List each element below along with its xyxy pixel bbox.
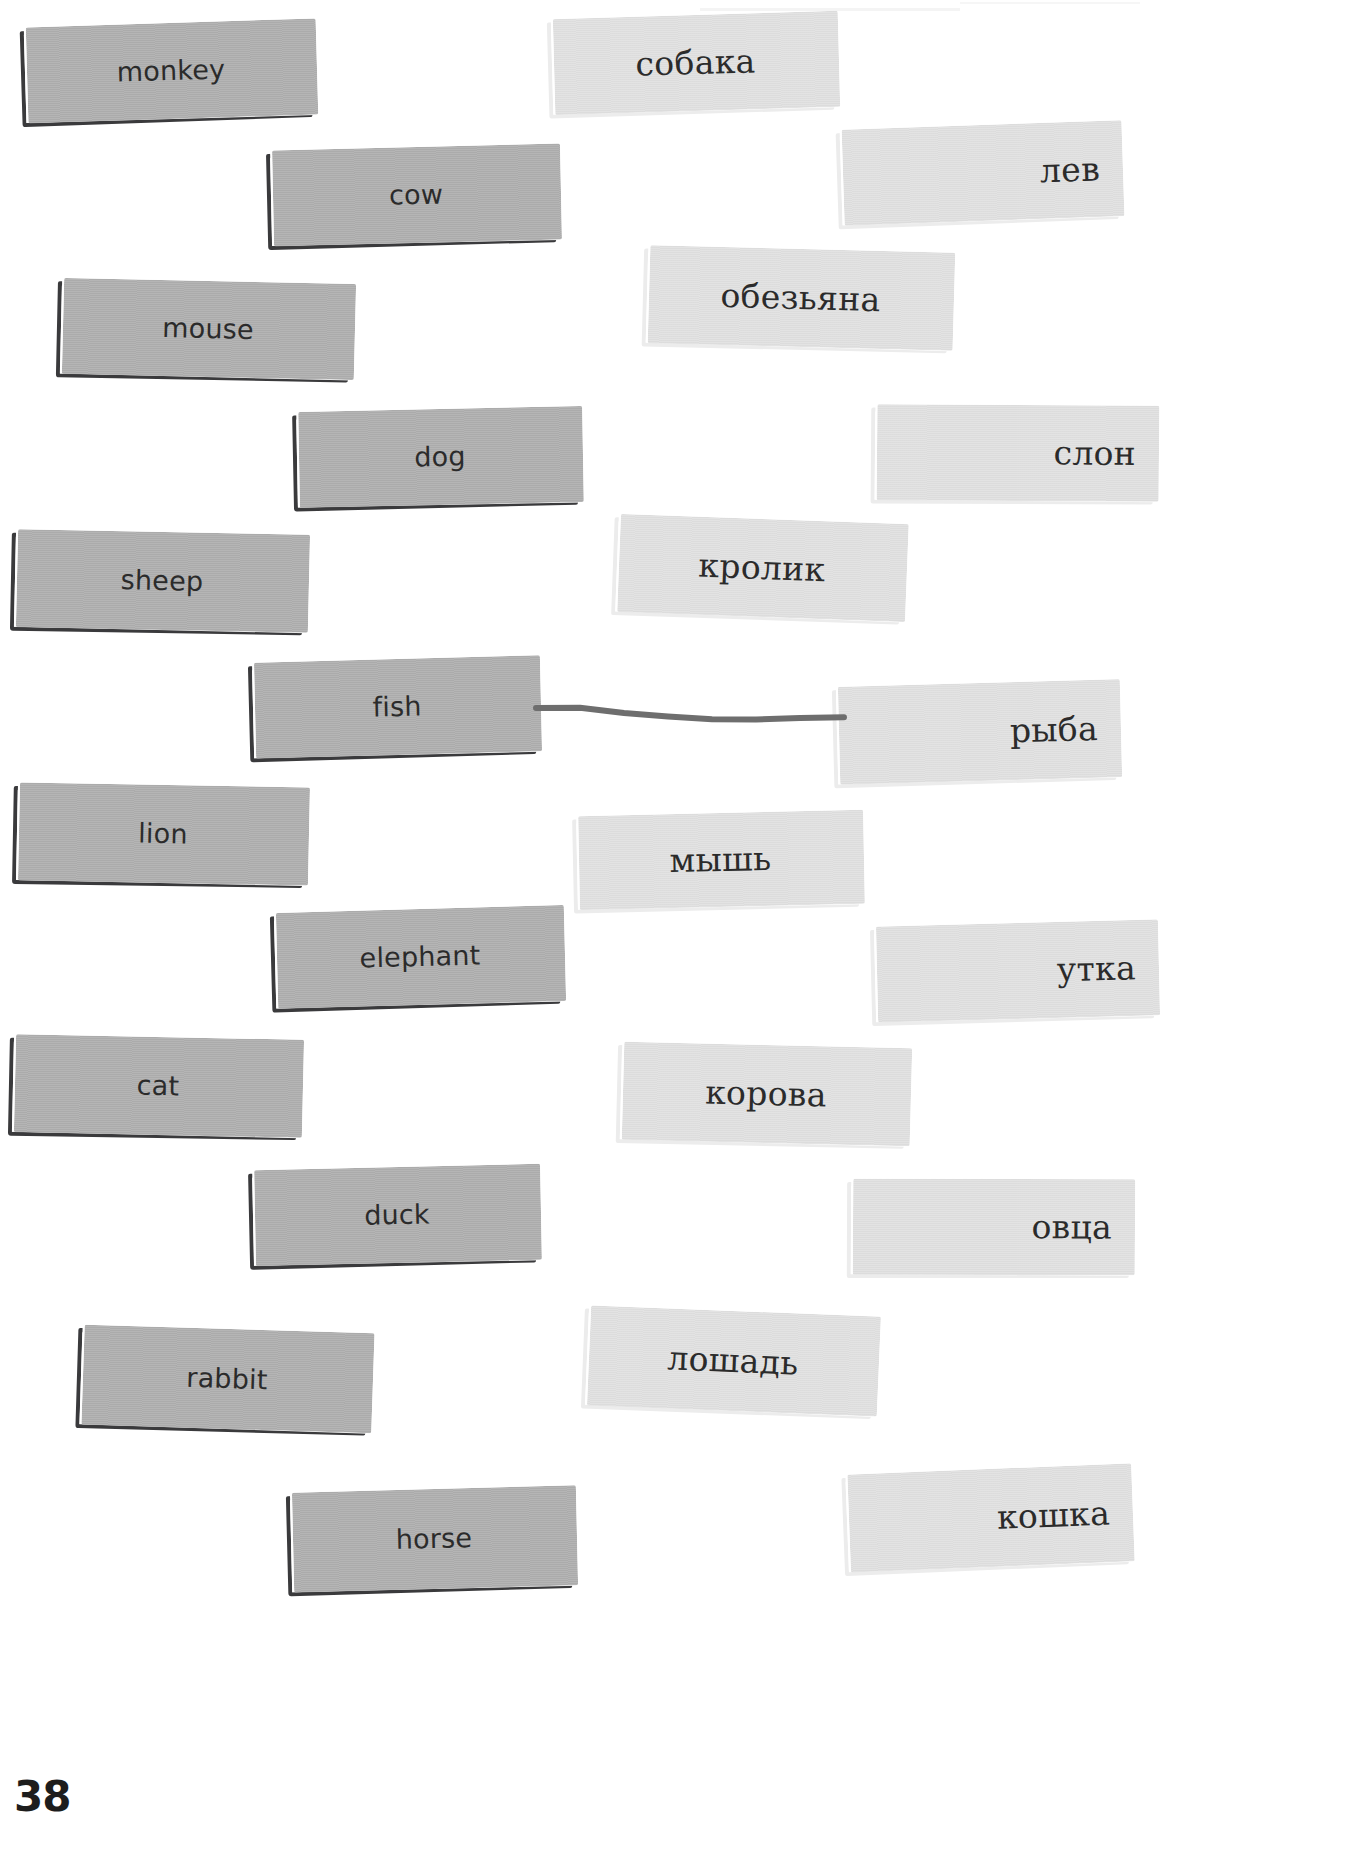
english-word-card-cat[interactable]: cat (13, 1033, 303, 1138)
english-word-card-fish[interactable]: fish (253, 655, 541, 757)
page-number: 38 (14, 1772, 70, 1821)
card-label: dog (298, 440, 582, 472)
card-label: duck (254, 1198, 540, 1230)
card-label: утка (876, 950, 1159, 989)
english-word-card-lion[interactable]: lion (17, 781, 309, 885)
english-word-card-mouse[interactable]: mouse (61, 276, 355, 379)
card-label: мышь (578, 840, 864, 878)
english-word-card-cow[interactable]: cow (271, 143, 561, 245)
russian-word-card-ovtsa[interactable]: овца (852, 1177, 1134, 1274)
russian-word-card-lev[interactable]: лев (841, 120, 1124, 225)
card-label: овца (852, 1209, 1134, 1243)
english-word-card-sheep[interactable]: sheep (15, 528, 309, 633)
russian-word-card-sobaka[interactable]: собака (552, 10, 839, 113)
english-word-card-elephant[interactable]: elephant (275, 904, 565, 1007)
russian-word-card-korova[interactable]: корова (621, 1040, 911, 1146)
worksheet-page: monkeycowmousedogsheepfishlionelephantca… (0, 0, 1367, 1851)
russian-word-card-utka[interactable]: утка (875, 919, 1159, 1021)
scan-artifact (960, 2, 1140, 4)
russian-word-card-krolik[interactable]: кролик (616, 513, 908, 622)
english-word-card-rabbit[interactable]: rabbit (80, 1323, 373, 1433)
english-word-card-horse[interactable]: horse (291, 1485, 577, 1591)
russian-word-card-loshad[interactable]: лошадь (586, 1304, 880, 1416)
english-word-card-dog[interactable]: dog (297, 406, 583, 507)
english-word-card-monkey[interactable]: monkey (25, 18, 318, 122)
russian-word-card-koshka[interactable]: кошка (846, 1463, 1133, 1571)
card-label: рыба (838, 711, 1121, 751)
english-word-card-duck[interactable]: duck (253, 1163, 541, 1264)
match-line-fish-to-ryba[interactable] (536, 708, 844, 720)
russian-word-card-mysh[interactable]: мышь (577, 809, 864, 908)
russian-word-card-slon[interactable]: слон (876, 403, 1159, 501)
russian-word-card-obezyana[interactable]: обезьяна (647, 244, 955, 350)
russian-word-card-ryba[interactable]: рыба (837, 679, 1121, 784)
card-label: слон (876, 434, 1158, 469)
